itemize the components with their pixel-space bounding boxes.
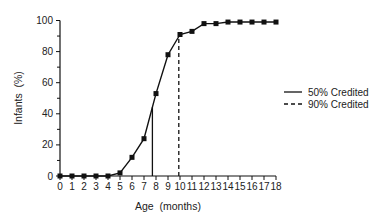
data-point-marker xyxy=(118,170,123,175)
data-point-marker xyxy=(214,21,219,26)
data-point-marker xyxy=(82,174,87,179)
data-point-marker xyxy=(238,20,243,25)
reference-lines xyxy=(152,37,178,176)
x-tick-label: 11 xyxy=(187,181,198,192)
y-tick-label: 40 xyxy=(42,108,54,119)
x-tick-label: 18 xyxy=(270,181,282,192)
data-point-marker xyxy=(154,91,159,96)
series-line xyxy=(60,22,276,176)
x-tick-label: 13 xyxy=(210,181,222,192)
x-tick-label: 8 xyxy=(153,181,159,192)
x-tick-label: 9 xyxy=(165,181,171,192)
x-tick-label: 15 xyxy=(234,181,246,192)
y-tick-label: 0 xyxy=(47,171,53,182)
y-tick-label: 60 xyxy=(42,77,54,88)
data-point-marker xyxy=(130,155,135,160)
legend-label: 50% Credited xyxy=(308,87,369,98)
data-point-marker xyxy=(58,174,63,179)
data-point-marker xyxy=(178,32,183,37)
data-point-marker xyxy=(274,20,279,25)
x-tick-label: 0 xyxy=(57,181,63,192)
data-point-marker xyxy=(94,174,99,179)
data-point-marker xyxy=(70,174,75,179)
x-tick-label: 5 xyxy=(117,181,123,192)
axes: 0123456789101112131415161718020406080100 xyxy=(36,15,282,192)
data-point-marker xyxy=(166,52,171,57)
data-point-marker xyxy=(190,29,195,34)
data-point-marker xyxy=(262,20,267,25)
x-tick-label: 17 xyxy=(258,181,270,192)
data-point-marker xyxy=(250,20,255,25)
data-series xyxy=(58,20,279,179)
x-tick-label: 14 xyxy=(222,181,234,192)
x-tick-label: 16 xyxy=(246,181,258,192)
x-tick-label: 7 xyxy=(141,181,147,192)
legend: 50% Credited90% Credited xyxy=(284,87,369,110)
x-tick-label: 6 xyxy=(129,181,135,192)
y-tick-label: 20 xyxy=(42,139,54,150)
y-tick-label: 80 xyxy=(42,46,54,57)
x-tick-label: 3 xyxy=(93,181,99,192)
x-tick-label: 2 xyxy=(81,181,87,192)
x-tick-label: 1 xyxy=(69,181,75,192)
x-axis-title: Age (months) xyxy=(135,200,201,212)
x-tick-label: 12 xyxy=(198,181,210,192)
line-chart: 0123456789101112131415161718020406080100… xyxy=(0,0,373,219)
data-point-marker xyxy=(106,174,111,179)
data-point-marker xyxy=(202,21,207,26)
y-axis-title: Infants (%) xyxy=(12,71,24,125)
legend-label: 90% Credited xyxy=(308,99,369,110)
data-point-marker xyxy=(226,20,231,25)
data-point-marker xyxy=(142,136,147,141)
x-tick-label: 4 xyxy=(105,181,111,192)
x-tick-label: 10 xyxy=(174,181,186,192)
y-tick-label: 100 xyxy=(36,15,53,26)
